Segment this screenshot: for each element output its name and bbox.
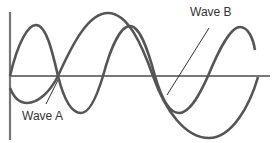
wave-a-curve	[10, 25, 255, 113]
wave-a-label: Wave A	[22, 109, 63, 123]
wave-b-label: Wave B	[190, 5, 232, 19]
